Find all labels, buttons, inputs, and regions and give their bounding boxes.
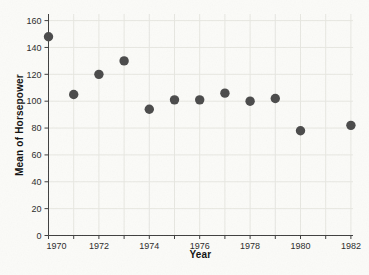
scan-noise-overlay bbox=[0, 0, 369, 275]
scatter-chart: 1970197219741976197819801982020406080100… bbox=[0, 0, 369, 275]
x-axis-title: Year bbox=[48, 249, 353, 261]
y-axis-title: Mean of Horsepower bbox=[14, 14, 26, 236]
chart-figure: 1970197219741976197819801982020406080100… bbox=[0, 0, 369, 275]
